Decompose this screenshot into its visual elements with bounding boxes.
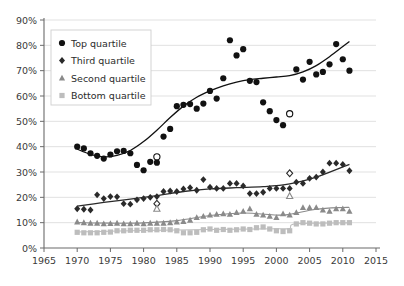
- data-point-square: [314, 221, 319, 226]
- data-point-square: [187, 230, 192, 235]
- x-tick-label: 1985: [165, 255, 189, 266]
- data-point-triangle: [240, 208, 246, 214]
- data-point-circle: [287, 111, 293, 117]
- data-point-circle: [240, 46, 246, 52]
- x-tick-label: 2000: [264, 255, 288, 266]
- data-point-triangle: [247, 205, 253, 211]
- data-point-circle: [180, 102, 186, 108]
- data-point-circle: [293, 66, 299, 72]
- legend-item-second-quartile[interactable]: Second quartile: [59, 73, 146, 84]
- chart-legend: Top quartileThird quartileSecond quartil…: [51, 30, 151, 105]
- y-tick-label: 10%: [16, 217, 37, 228]
- y-tick-label: 30%: [16, 167, 37, 178]
- data-point-diamond: [154, 193, 160, 200]
- data-point-circle: [101, 155, 107, 161]
- x-tick-label: 2010: [331, 255, 355, 266]
- data-point-square: [207, 226, 212, 231]
- legend-item-label: Third quartile: [70, 55, 135, 66]
- data-point-square: [59, 93, 64, 98]
- data-point-circle: [187, 101, 193, 107]
- data-point-diamond: [307, 175, 313, 182]
- data-point-triangle: [307, 204, 313, 210]
- data-point-square: [227, 228, 232, 233]
- data-point-square: [101, 230, 106, 235]
- data-point-circle: [141, 167, 147, 173]
- data-point-circle: [220, 75, 226, 81]
- data-point-square: [267, 226, 272, 231]
- data-point-circle: [333, 41, 339, 47]
- data-point-square: [241, 226, 246, 231]
- data-point-diamond: [147, 194, 153, 201]
- x-axis-ticks: 1965197019751980198519901995200020052010…: [32, 248, 388, 266]
- data-point-square: [254, 225, 259, 230]
- data-point-square: [234, 227, 239, 232]
- data-point-diamond: [114, 193, 120, 200]
- data-point-circle: [194, 106, 200, 112]
- legend-item-bottom-quartile[interactable]: Bottom quartile: [59, 90, 145, 101]
- data-point-triangle: [287, 193, 293, 199]
- data-point-diamond: [293, 179, 299, 186]
- data-point-circle: [300, 76, 306, 82]
- x-tick-label: 1970: [65, 255, 89, 266]
- x-tick-label: 1975: [98, 255, 122, 266]
- data-point-square: [300, 220, 305, 225]
- data-point-triangle: [320, 207, 326, 213]
- data-point-circle: [74, 144, 80, 150]
- data-point-diamond: [81, 206, 87, 213]
- data-point-triangle: [167, 219, 173, 225]
- y-tick-label: 60%: [16, 91, 37, 102]
- quartile-scatter-chart: 0%10%20%30%40%50%60%70%80%90%19651970197…: [0, 0, 404, 286]
- data-point-circle: [154, 154, 160, 160]
- data-point-diamond: [287, 185, 293, 192]
- data-point-circle: [174, 103, 180, 109]
- data-point-square: [114, 228, 119, 233]
- data-point-square: [320, 221, 325, 226]
- data-point-circle: [260, 99, 266, 105]
- data-point-triangle: [340, 205, 346, 211]
- data-point-diamond: [227, 180, 233, 187]
- data-point-circle: [326, 61, 332, 67]
- data-point-square: [221, 227, 226, 232]
- data-point-circle: [313, 71, 319, 77]
- data-point-square: [274, 228, 279, 233]
- data-point-diamond: [280, 185, 286, 192]
- data-point-circle: [160, 133, 166, 139]
- data-point-circle: [94, 153, 100, 159]
- data-point-circle: [247, 78, 253, 84]
- data-point-triangle: [207, 212, 213, 218]
- data-point-diamond: [200, 176, 206, 183]
- x-tick-label: 1995: [231, 255, 255, 266]
- data-point-diamond: [287, 170, 293, 177]
- data-point-circle: [280, 122, 286, 128]
- data-point-circle: [267, 108, 273, 114]
- data-point-square: [88, 230, 93, 235]
- data-point-diamond: [107, 193, 113, 200]
- data-point-diamond: [313, 174, 319, 181]
- data-point-triangle: [174, 219, 180, 225]
- legend-item-label: Bottom quartile: [71, 90, 146, 101]
- data-point-square: [154, 227, 159, 232]
- data-point-circle: [167, 126, 173, 132]
- data-point-circle: [107, 151, 113, 157]
- x-tick-label: 1990: [198, 255, 222, 266]
- legend-item-label: Top quartile: [70, 38, 127, 49]
- y-tick-label: 40%: [16, 141, 37, 152]
- y-tick-label: 20%: [16, 192, 37, 203]
- data-point-circle: [134, 162, 140, 168]
- data-point-circle: [233, 52, 239, 58]
- y-tick-label: 70%: [16, 65, 37, 76]
- x-tick-label: 1965: [32, 255, 56, 266]
- legend-item-third-quartile[interactable]: Third quartile: [59, 55, 135, 66]
- chart-container: 0%10%20%30%40%50%60%70%80%90%19651970197…: [0, 0, 404, 286]
- y-tick-label: 0%: [22, 243, 37, 254]
- data-point-triangle: [220, 211, 226, 217]
- data-point-circle: [147, 159, 153, 165]
- data-point-triangle: [74, 219, 80, 225]
- data-point-square: [280, 229, 285, 234]
- data-point-square: [148, 227, 153, 232]
- data-point-circle: [340, 56, 346, 62]
- data-point-diamond: [87, 207, 93, 214]
- legend-item-label: Second quartile: [71, 73, 146, 84]
- x-tick-label: 1980: [132, 255, 156, 266]
- data-point-square: [334, 220, 339, 225]
